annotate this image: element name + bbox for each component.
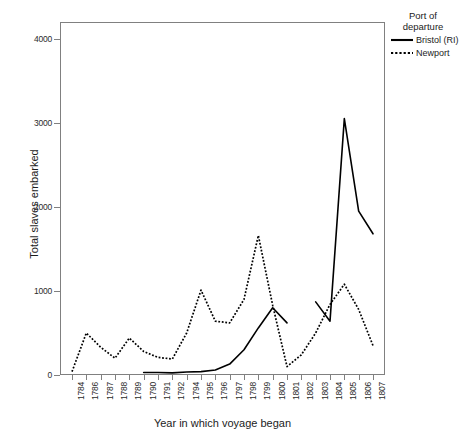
chart-container: 01000200030004000 Total slaves embarked … xyxy=(0,0,469,438)
x-tick-label: 1805 xyxy=(348,382,358,400)
x-tick xyxy=(258,375,259,380)
x-tick xyxy=(115,375,116,380)
x-tick xyxy=(86,375,87,380)
x-tick-label: 1803 xyxy=(320,382,330,400)
x-tick xyxy=(373,375,374,380)
x-tick-label: 1788 xyxy=(119,382,129,400)
x-tick-label: 1789 xyxy=(133,382,143,400)
x-tick-label: 1796 xyxy=(219,382,229,400)
x-tick-label: 1792 xyxy=(176,382,186,400)
legend-item-label: Newport xyxy=(416,48,450,58)
legend-item-newport[interactable]: Newport xyxy=(391,47,469,58)
x-tick-label: 1806 xyxy=(363,382,373,400)
x-tick-label: 1797 xyxy=(234,382,244,400)
x-tick-label: 1786 xyxy=(90,382,100,400)
y-tick-label: 4000 xyxy=(34,34,52,44)
x-tick xyxy=(201,375,202,380)
x-tick-label: 1802 xyxy=(305,382,315,400)
x-tick-label: 1804 xyxy=(334,382,344,400)
x-tick-label: 1790 xyxy=(148,382,158,400)
y-tick-label: 0 xyxy=(47,370,52,380)
legend-item-label: Bristol (RI) xyxy=(416,35,459,45)
series-line-bristol-ri xyxy=(316,119,373,322)
x-tick-label: 1798 xyxy=(248,382,258,400)
x-tick xyxy=(187,375,188,380)
legend-item-bristol-ri[interactable]: Bristol (RI) xyxy=(391,34,469,45)
x-tick-label: 1807 xyxy=(377,382,387,400)
x-tick xyxy=(72,375,73,380)
x-tick-label: 1800 xyxy=(277,382,287,400)
x-tick xyxy=(215,375,216,380)
x-tick-label: 1794 xyxy=(191,382,201,400)
y-axis: 01000200030004000 Total slaves embarked xyxy=(0,0,60,438)
x-tick xyxy=(101,375,102,380)
x-tick xyxy=(273,375,274,380)
x-tick xyxy=(330,375,331,380)
legend: Port of departure Bristol (RI)Newport xyxy=(391,10,469,58)
x-tick-label: 1791 xyxy=(162,382,172,400)
x-tick xyxy=(301,375,302,380)
legend-title-line-2: departure xyxy=(391,21,455,32)
legend-title: Port of departure xyxy=(391,10,455,32)
x-tick xyxy=(129,375,130,380)
x-tick-label: 1787 xyxy=(105,382,115,400)
solid-line-key xyxy=(391,35,413,45)
x-tick xyxy=(287,375,288,380)
x-tick xyxy=(316,375,317,380)
legend-title-line-1: Port of xyxy=(391,10,455,21)
series-layer xyxy=(60,22,385,375)
dotted-line-key xyxy=(391,48,413,58)
x-tick xyxy=(230,375,231,380)
x-tick-label: 1801 xyxy=(291,382,301,400)
x-tick xyxy=(158,375,159,380)
series-line-bristol-ri xyxy=(144,308,287,373)
y-axis-title: Total slaves embarked xyxy=(28,104,40,304)
x-tick xyxy=(172,375,173,380)
legend-entries: Bristol (RI)Newport xyxy=(391,34,469,58)
series-line-newport xyxy=(72,235,373,371)
x-tick xyxy=(359,375,360,380)
x-tick xyxy=(144,375,145,380)
x-tick-label: 1784 xyxy=(76,382,86,400)
x-tick-label: 1795 xyxy=(205,382,215,400)
x-axis-title: Year in which voyage began xyxy=(60,417,385,429)
x-tick-label: 1799 xyxy=(262,382,272,400)
x-tick xyxy=(344,375,345,380)
x-tick xyxy=(244,375,245,380)
